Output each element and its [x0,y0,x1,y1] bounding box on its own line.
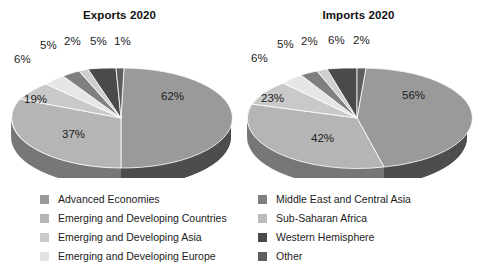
legend-label-middle-east-central-asia: Middle East and Central Asia [276,194,411,205]
legend-swatch-other [258,252,267,261]
legend-label-western-hemisphere: Western Hemisphere [276,232,374,243]
imports-chart: Imports 2020 [239,0,478,186]
exports-label-2: 2% [64,36,81,48]
legend-swatch-emerging-developing-europe [40,252,49,261]
pie-chart-figure: Exports 2020 [0,0,478,279]
legend-label-advanced-economies: Advanced Economies [58,194,160,205]
exports-chart: Exports 2020 [0,0,239,186]
imports-label-6: 6% [251,53,268,65]
legend-item-emerging-developing-europe: Emerging and Developing Europe [40,247,227,266]
imports-label-6b: 6% [328,35,345,47]
legend-item-western-hemisphere: Western Hemisphere [258,228,411,247]
imports-label-56: 56% [402,90,425,102]
exports-label-5a: 5% [40,40,57,52]
legend-swatch-advanced-economies [40,195,49,204]
legend-item-sub-saharan-africa: Sub-Saharan Africa [258,209,411,228]
legend-swatch-emerging-developing-countries [40,214,49,223]
exports-label-5b: 5% [90,36,107,48]
legend-item-emerging-developing-asia: Emerging and Developing Asia [40,228,227,247]
exports-chart-title: Exports 2020 [0,9,239,21]
exports-pie-stage: 62% 37% 19% [0,28,239,178]
imports-label-5a: 5% [277,39,294,51]
imports-chart-title: Imports 2020 [239,9,478,21]
imports-label-42: 42% [311,133,334,145]
legend-item-middle-east-central-asia: Middle East and Central Asia [258,190,411,209]
legend-swatch-emerging-developing-asia [40,233,49,242]
imports-label-2a: 2% [301,36,318,48]
exports-label-1: 1% [114,36,131,48]
imports-pie-stage: 56% 42% 23% [239,28,478,178]
exports-label-19: 19% [24,94,47,106]
legend-label-emerging-developing-countries: Emerging and Developing Countries [58,213,227,224]
legend-item-emerging-developing-countries: Emerging and Developing Countries [40,209,227,228]
legend-column-right: Middle East and Central Asia Sub-Saharan… [258,190,411,266]
legend-item-other: Other [258,247,411,266]
imports-label-2b: 2% [353,35,370,47]
legend-swatch-middle-east-central-asia [258,195,267,204]
exports-label-6: 6% [14,54,31,66]
legend-item-advanced-economies: Advanced Economies [40,190,227,209]
legend-label-emerging-developing-asia: Emerging and Developing Asia [58,232,202,243]
legend-column-left: Advanced Economies Emerging and Developi… [40,190,227,266]
legend-label-emerging-developing-europe: Emerging and Developing Europe [58,251,216,262]
imports-label-23: 23% [261,93,284,105]
exports-label-37: 37% [62,129,85,141]
exports-label-62: 62% [161,91,184,103]
chart-legend: Advanced Economies Emerging and Developi… [0,190,478,279]
legend-swatch-sub-saharan-africa [258,214,267,223]
legend-swatch-western-hemisphere [258,233,267,242]
legend-label-other: Other [276,251,302,262]
legend-label-sub-saharan-africa: Sub-Saharan Africa [276,213,367,224]
